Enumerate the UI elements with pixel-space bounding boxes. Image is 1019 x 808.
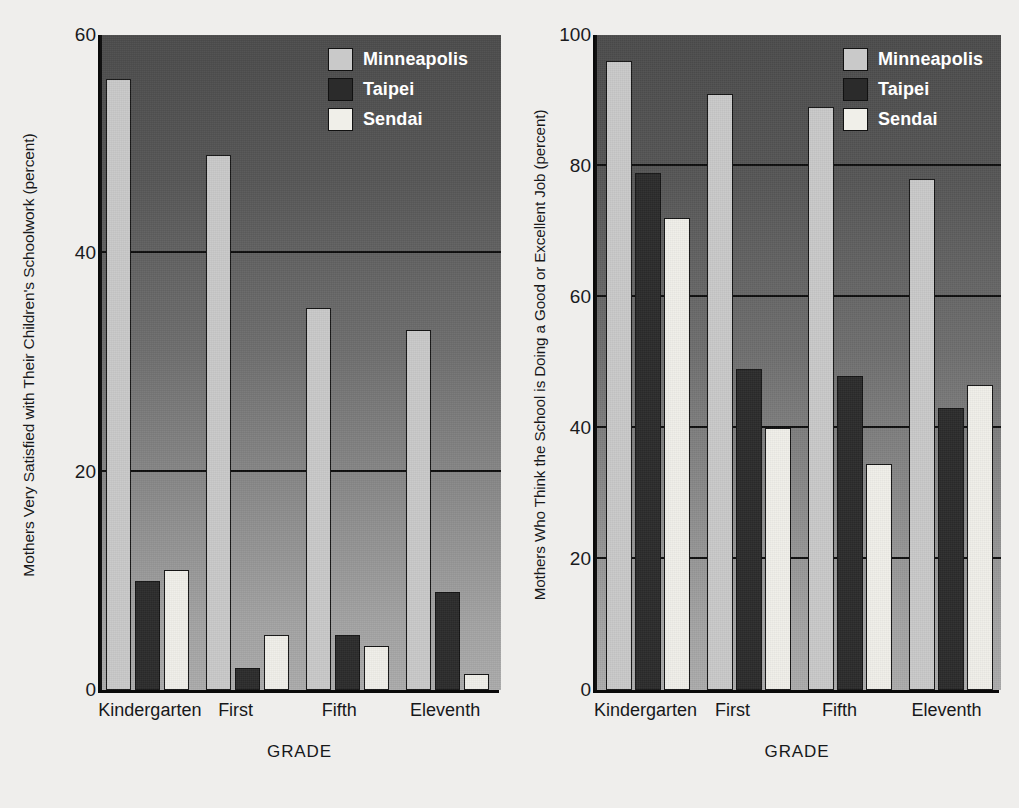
bar-taipei-first (736, 369, 762, 690)
y-tick-label-60: 60 (52, 24, 96, 46)
bar-minneapolis-kindergarten (106, 79, 131, 690)
gridline (102, 251, 501, 253)
y-axis-title-left: Mothers Very Satisfied with Their Childr… (16, 10, 42, 700)
legend-right: MinneapolisTaipeiSendai (843, 45, 983, 135)
bar-taipei-eleventh (435, 592, 460, 690)
x-category-label-fifth: Fifth (822, 700, 857, 721)
gridline (102, 470, 501, 472)
x-category-label-kindergarten: Kindergarten (594, 700, 697, 721)
legend-swatch-icon-taipei (843, 78, 868, 101)
bar-taipei-fifth (335, 635, 360, 690)
bar-minneapolis-first (206, 155, 231, 690)
bar-sendai-kindergarten (664, 218, 690, 690)
bar-sendai-eleventh (967, 385, 993, 690)
bar-taipei-fifth (837, 376, 863, 690)
chart-panel-right: Mothers Who Think the School is Doing a … (509, 0, 1019, 808)
bar-sendai-first (765, 428, 791, 690)
y-tick-labels-left: 0204060 (48, 0, 96, 808)
y-tick-label-0: 0 (52, 679, 96, 701)
gridline (597, 164, 1001, 166)
legend-label: Taipei (363, 79, 414, 100)
legend-swatch-icon-minneapolis (328, 48, 353, 71)
y-tick-label-20: 20 (547, 548, 591, 570)
bar-sendai-kindergarten (164, 570, 189, 690)
legend-label: Sendai (363, 109, 423, 130)
bar-minneapolis-eleventh (406, 330, 431, 690)
bar-taipei-kindergarten (635, 173, 661, 690)
x-axis-baseline (100, 690, 499, 693)
y-tick-labels-right: 020406080100 (543, 0, 591, 808)
x-category-label-eleventh: Eleventh (911, 700, 981, 721)
y-axis-line (98, 35, 100, 693)
y-tick-label-40: 40 (52, 242, 96, 264)
legend-item-sendai: Sendai (843, 105, 983, 133)
y-tick-label-100: 100 (547, 24, 591, 46)
bar-minneapolis-kindergarten (606, 61, 632, 690)
bar-taipei-kindergarten (135, 581, 160, 690)
y-tick-label-60: 60 (547, 286, 591, 308)
bar-minneapolis-fifth (306, 308, 331, 690)
x-category-label-eleventh: Eleventh (410, 700, 480, 721)
legend-label: Sendai (878, 109, 938, 130)
legend-label: Minneapolis (878, 49, 983, 70)
legend-item-taipei: Taipei (843, 75, 983, 103)
x-category-label-fifth: Fifth (322, 700, 357, 721)
chart-panel-left: Mothers Very Satisfied with Their Childr… (0, 0, 509, 808)
two-panel-bar-chart-figure: Mothers Very Satisfied with Their Childr… (0, 0, 1019, 808)
y-tick-label-20: 20 (52, 461, 96, 483)
legend-swatch-icon-sendai (843, 108, 868, 131)
y-tick-label-0: 0 (547, 679, 591, 701)
bar-sendai-first (264, 635, 289, 690)
y-axis-line (593, 35, 595, 693)
legend-item-minneapolis: Minneapolis (843, 45, 983, 73)
x-axis-baseline (595, 690, 999, 693)
legend-item-minneapolis: Minneapolis (328, 45, 468, 73)
legend-label: Taipei (878, 79, 929, 100)
bar-taipei-eleventh (938, 408, 964, 690)
legend-swatch-icon-taipei (328, 78, 353, 101)
bar-minneapolis-first (707, 94, 733, 690)
bar-sendai-fifth (364, 646, 389, 690)
legend-label: Minneapolis (363, 49, 468, 70)
bar-sendai-eleventh (464, 674, 489, 690)
legend-left: MinneapolisTaipeiSendai (328, 45, 468, 135)
bar-sendai-fifth (866, 464, 892, 690)
legend-swatch-icon-minneapolis (843, 48, 868, 71)
x-axis-title-left: GRADE (267, 742, 332, 762)
bar-taipei-first (235, 668, 260, 690)
bar-minneapolis-eleventh (909, 179, 935, 690)
y-tick-label-80: 80 (547, 155, 591, 177)
y-tick-label-40: 40 (547, 417, 591, 439)
legend-item-taipei: Taipei (328, 75, 468, 103)
legend-item-sendai: Sendai (328, 105, 468, 133)
x-axis-title-right: GRADE (765, 742, 830, 762)
x-category-label-kindergarten: Kindergarten (98, 700, 201, 721)
bar-minneapolis-fifth (808, 107, 834, 690)
legend-swatch-icon-sendai (328, 108, 353, 131)
x-category-label-first: First (715, 700, 750, 721)
x-category-label-first: First (218, 700, 253, 721)
